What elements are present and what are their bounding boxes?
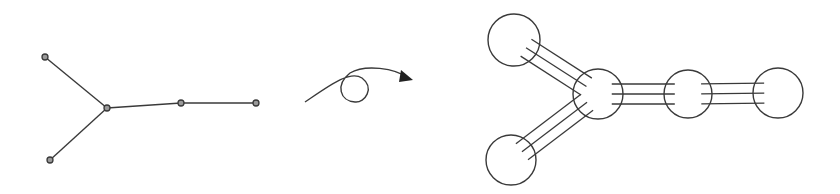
graph-transform-diagram (0, 0, 840, 194)
graph-node (47, 157, 53, 163)
transform-arrow-icon (305, 68, 413, 102)
circle-bond-graph (486, 14, 803, 185)
stick-graph (42, 54, 259, 163)
graph-node (42, 54, 48, 60)
graph-node (104, 105, 110, 111)
graph-edge (107, 103, 181, 108)
bond-line (516, 94, 581, 143)
arrow-curve (305, 68, 408, 102)
bond-line (522, 102, 587, 151)
bond-line (528, 110, 593, 159)
graph-node (253, 100, 259, 106)
bond-line (531, 39, 591, 78)
bond-line (521, 56, 581, 95)
diagram-canvas (0, 0, 840, 194)
graph-node (178, 100, 184, 106)
arrowhead-icon (399, 70, 413, 82)
graph-edge (45, 57, 107, 108)
bond-line (701, 93, 764, 94)
graph-edge (50, 108, 107, 160)
